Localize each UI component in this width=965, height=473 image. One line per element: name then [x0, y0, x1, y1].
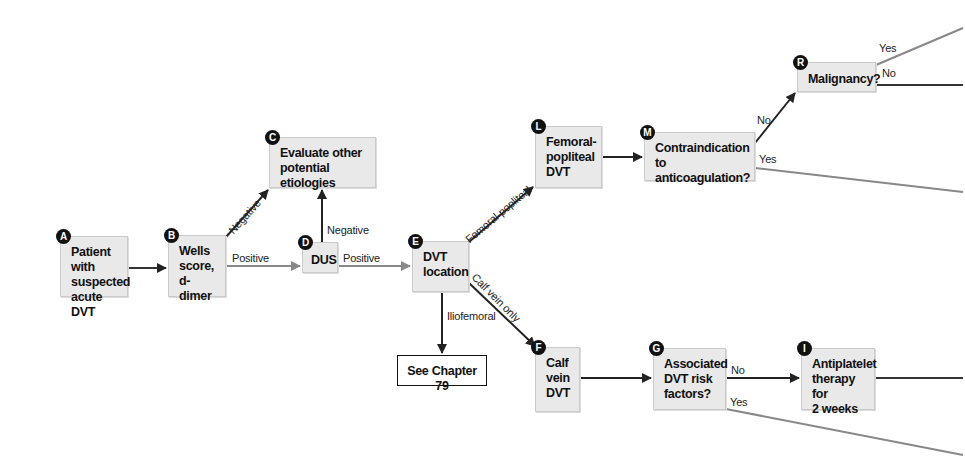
node-f-text: Calf vein DVT — [546, 356, 573, 401]
node-r-text: Malignancy? — [808, 72, 871, 87]
edge-label-r-yes: Yes — [879, 42, 896, 54]
badge-r: R — [793, 55, 808, 70]
badge-b: B — [164, 228, 179, 243]
badge-e: E — [408, 234, 423, 249]
edge-label-d-negative: Negative — [327, 224, 369, 236]
edge-label-m-yes: Yes — [759, 153, 776, 165]
node-i-antiplatelet: I Antiplatelet therapy for 2 weeks — [801, 348, 875, 410]
node-d-text: DUS — [311, 253, 333, 268]
node-g-text: Associated DVT risk factors? — [664, 357, 719, 402]
node-d-dus: D DUS — [302, 242, 338, 273]
node-c-text: Evaluate other potential etiologies — [280, 146, 369, 191]
node-m-contraindication: M Contraindication to anticoagulation? — [644, 132, 755, 181]
node-c-evaluate-etiologies: C Evaluate other potential etiologies — [269, 137, 376, 188]
edge-label-iliofemoral: Iliofemoral — [447, 310, 496, 322]
node-b-text: Wells score, d-dimer — [179, 244, 219, 304]
badge-f: F — [531, 340, 546, 355]
edge-label-b-positive: Positive — [232, 252, 269, 264]
edge-label-g-no: No — [731, 364, 745, 376]
node-see-chapter-79: See Chapter 79 — [397, 355, 487, 386]
node-i-text: Antiplatelet therapy for 2 weeks — [812, 357, 868, 417]
node-e-dvt-location: E DVT location — [412, 241, 469, 292]
node-a-text: Patient with suspected acute DVT — [71, 245, 121, 320]
node-e-text: DVT location — [423, 250, 462, 280]
badge-c: C — [265, 130, 280, 145]
node-a-patient: A Patient with suspected acute DVT — [60, 236, 128, 297]
badge-g: G — [649, 341, 664, 356]
edge-label-d-positive: Positive — [343, 252, 380, 264]
chapter-text: See Chapter 79 — [402, 364, 482, 394]
node-b-wells-score: B Wells score, d-dimer — [168, 235, 226, 297]
edge-label-g-yes: Yes — [730, 396, 747, 408]
edge-label-m-no: No — [757, 114, 771, 126]
node-f-calf-vein: F Calf vein DVT — [535, 347, 580, 412]
node-l-femoral-popliteal: L Femoral- popliteal DVT — [535, 126, 602, 188]
node-g-risk-factors: G Associated DVT risk factors? — [653, 348, 726, 410]
badge-a: A — [56, 229, 71, 244]
badge-l: L — [531, 119, 546, 134]
node-l-text: Femoral- popliteal DVT — [546, 135, 595, 180]
badge-i: I — [797, 341, 812, 356]
dvt-flowchart: A Patient with suspected acute DVT B Wel… — [0, 0, 965, 473]
badge-d: D — [298, 235, 313, 250]
edge-label-r-no: No — [882, 67, 896, 79]
badge-m: M — [640, 125, 655, 140]
node-r-malignancy: R Malignancy? — [797, 62, 876, 92]
node-m-text: Contraindication to anticoagulation? — [655, 141, 748, 186]
